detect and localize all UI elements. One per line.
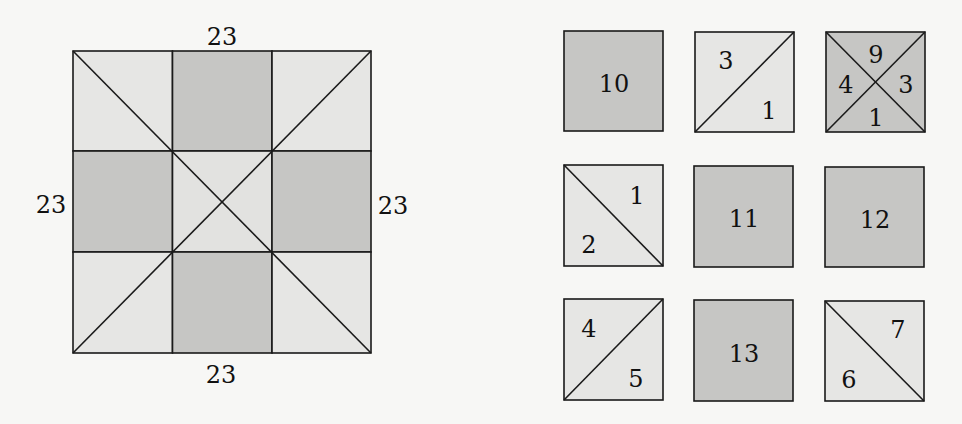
tile-3-1-label-bottom: 1: [761, 99, 776, 123]
tile-10-label: 10: [599, 72, 630, 96]
big-square: [73, 51, 371, 353]
cell-r0-c1: [173, 51, 273, 151]
big-square-label-top: 23: [207, 25, 238, 49]
big-square-label-bottom: 23: [206, 363, 237, 387]
big-square-label-right: 23: [378, 194, 409, 218]
tile-1-2-label-top: 1: [629, 184, 644, 208]
tile-3-1-label-top: 3: [718, 49, 733, 73]
big-square-label-left: 23: [36, 193, 67, 217]
cell-r1-c2: [272, 151, 371, 252]
big-square-figure: [0, 0, 962, 424]
cell-r1-c0: [73, 151, 173, 252]
cell-r2-c1: [173, 252, 273, 353]
tile-9-label-bottom: 1: [868, 106, 883, 130]
tile-9-label-top: 9: [868, 43, 883, 67]
tile-9-label-right: 3: [898, 73, 913, 97]
tile-13-label: 13: [729, 342, 760, 366]
tile-4-5-label-bottom: 5: [628, 367, 643, 391]
tile-12-label: 12: [860, 208, 891, 232]
tile-7-6-label-top: 7: [890, 318, 905, 342]
tile-4-5-label-top: 4: [581, 317, 596, 341]
tile-9-label-left: 4: [838, 73, 853, 97]
tile-7-6-label-bottom: 6: [841, 368, 856, 392]
tile-1-2-label-bottom: 2: [581, 233, 596, 257]
tile-11-label: 11: [729, 207, 760, 231]
